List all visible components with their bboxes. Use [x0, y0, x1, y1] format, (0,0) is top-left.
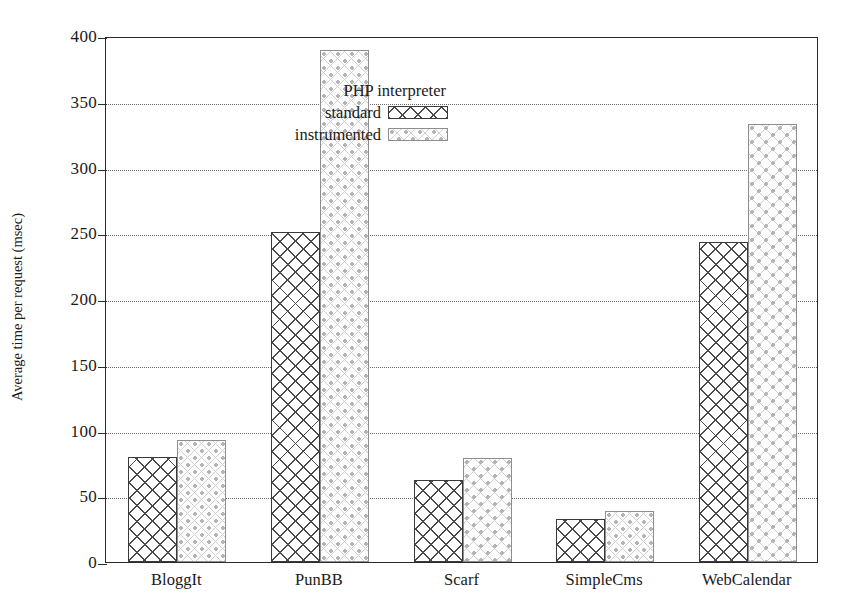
- y-axis-tick: [98, 433, 107, 434]
- legend-swatch-standard-icon: [388, 106, 448, 119]
- y-axis-tick-label: 50: [79, 487, 97, 507]
- bar-webcalendar-standard: [699, 242, 748, 562]
- bar-scarf-standard: [414, 480, 463, 562]
- x-axis-label-punbb: PunBB: [295, 570, 343, 590]
- gridline: [106, 170, 817, 171]
- bar-punbb-standard: [271, 232, 320, 562]
- bar-chart: Average time per request (msec) 05010015…: [0, 0, 849, 613]
- bar-bloggit-standard: [128, 457, 177, 562]
- x-axis-label-simplecms: SimpleCms: [566, 570, 643, 590]
- y-axis-tick-label: 400: [71, 27, 97, 47]
- bar-bloggit-instrumented: [177, 440, 226, 562]
- y-axis-tick: [98, 38, 107, 39]
- y-axis-tick-label: 250: [71, 224, 97, 244]
- legend-label-instrumented: instrumented: [295, 124, 381, 146]
- legend-item-instrumented: instrumented: [228, 124, 448, 146]
- y-axis-tick: [98, 367, 107, 368]
- y-axis-tick: [98, 564, 107, 565]
- x-axis-label-bloggit: BloggIt: [151, 570, 201, 590]
- y-axis-tick-label: 0: [88, 553, 97, 573]
- y-axis-tick: [98, 235, 107, 236]
- y-axis-tick: [98, 170, 107, 171]
- bar-simplecms-instrumented: [605, 511, 654, 562]
- legend: PHP interpreter standard instrumented: [228, 80, 448, 145]
- legend-title: PHP interpreter: [228, 80, 448, 102]
- y-axis-title: Average time per request (msec): [9, 212, 26, 400]
- legend-item-standard: standard: [228, 102, 448, 124]
- plot-area: PHP interpreter standard instrumented: [105, 37, 818, 563]
- y-axis-tick: [98, 498, 107, 499]
- bar-scarf-instrumented: [463, 458, 512, 562]
- y-axis-tick-label: 300: [71, 159, 97, 179]
- y-axis-tick-label: 200: [71, 290, 97, 310]
- gridline: [106, 235, 817, 236]
- x-axis-label-scarf: Scarf: [444, 570, 479, 590]
- bar-simplecms-standard: [556, 519, 605, 562]
- y-axis-tick-label: 150: [71, 356, 97, 376]
- legend-label-standard: standard: [325, 102, 381, 124]
- y-axis-tick: [98, 104, 107, 105]
- y-axis-tick-label: 350: [71, 93, 97, 113]
- x-axis-label-webcalendar: WebCalendar: [702, 570, 791, 590]
- y-axis-tick: [98, 301, 107, 302]
- bar-webcalendar-instrumented: [748, 124, 797, 562]
- y-axis-tick-label: 100: [71, 422, 97, 442]
- gridline: [106, 104, 817, 105]
- legend-swatch-instrumented-icon: [388, 128, 448, 141]
